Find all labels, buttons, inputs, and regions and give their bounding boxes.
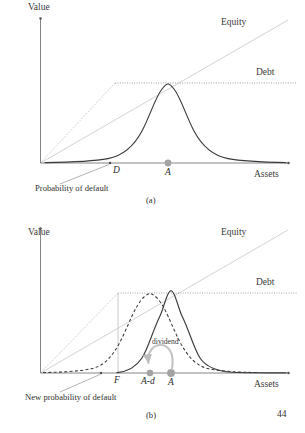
dividend-label: dividend: [152, 338, 179, 346]
figure-svg: [0, 0, 305, 433]
panel-b-graph: [39, 227, 297, 392]
panel-b-y-axis-label: Value: [28, 228, 50, 238]
panel-a-y-axis-cap: [39, 17, 42, 20]
panel-b-annotation: New probability of default: [25, 393, 116, 402]
dividend-arrow: [148, 345, 172, 369]
panel-a-x-axis-label: Assets: [254, 170, 279, 180]
panel-a-debt-label: Debt: [256, 68, 274, 78]
panel-a-equity-line: [41, 20, 289, 163]
panel-a-default-marker: [109, 162, 111, 164]
panel-b-equity-label: Equity: [221, 228, 246, 238]
panel-b-x-axis-label: Assets: [254, 380, 279, 390]
panel-b-debt-label: Debt: [256, 278, 274, 288]
panel-a-asset-point-label: A: [165, 168, 171, 178]
figure-container: Value Equity Debt D A Assets Probability…: [0, 0, 305, 433]
panel-a-caption: (a): [146, 196, 156, 205]
panel-a-annotation-leader: [60, 165, 109, 185]
panel-b-face-value-marker: [100, 372, 102, 374]
panel-a-debt-ramp: [41, 83, 116, 163]
panel-b-face-value-label: F: [114, 376, 120, 386]
panel-a-density-curve: [45, 84, 286, 163]
panel-a-graph: [39, 17, 297, 184]
panel-b-density-curve-dashed: [43, 294, 258, 373]
panel-b-annotation-leader: [60, 375, 100, 393]
panel-a-default-point-label: D: [113, 166, 120, 176]
panel-b-asset-marker: [167, 369, 175, 377]
panel-b-x-axis-cap: [287, 372, 290, 375]
panel-a-equity-label: Equity: [221, 18, 246, 28]
panel-a-annotation: Probability of default: [35, 184, 109, 193]
panel-b-density-curve-solid: [117, 291, 286, 373]
panel-b-asset-point-label: A: [168, 378, 174, 388]
panel-b-caption: (b): [146, 411, 156, 420]
panel-b-equity-line: [41, 230, 289, 373]
panel-a-asset-marker: [165, 160, 172, 167]
panel-a-y-axis-label: Value: [28, 3, 50, 13]
page-number: 44: [277, 410, 287, 420]
panel-a-x-axis-cap: [287, 162, 290, 165]
panel-b-post-dividend-label: A-d: [141, 377, 155, 387]
